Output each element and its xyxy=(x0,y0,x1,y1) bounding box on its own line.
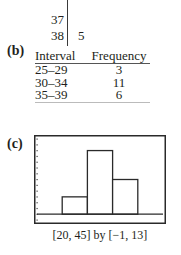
y-tick-dot xyxy=(37,167,38,168)
y-tick-dot xyxy=(37,150,38,151)
y-tick-dot xyxy=(37,162,38,163)
y-tick-dot xyxy=(37,173,38,174)
interval-cell: 35–39 xyxy=(35,89,88,102)
leaf-values: 5 xyxy=(78,29,85,42)
frequency-table: Interval Frequency 25–29 3 30–34 11 35–3… xyxy=(35,50,150,103)
histogram-bar xyxy=(87,151,112,215)
y-tick-dot xyxy=(37,202,38,203)
part-c-label: (c) xyxy=(7,137,23,151)
histogram-bar xyxy=(62,197,87,214)
y-tick-dot xyxy=(37,156,38,157)
window-caption: [20, 45] by [−1, 13] xyxy=(34,229,166,241)
y-tick-dot xyxy=(37,144,38,145)
y-tick-marks xyxy=(37,139,38,221)
y-tick-dot xyxy=(37,139,38,140)
frequency-cell: 6 xyxy=(88,89,150,102)
stem-leaf-divider xyxy=(67,0,68,46)
histogram-chart xyxy=(34,135,166,224)
table-row: 35–39 6 xyxy=(35,89,150,103)
stem-value: 37 xyxy=(44,13,64,26)
histogram-bar xyxy=(113,180,138,215)
stem-value: 38 xyxy=(44,29,64,42)
y-tick-dot xyxy=(37,185,38,186)
y-tick-dot xyxy=(37,191,38,192)
y-tick-dot xyxy=(37,208,38,209)
part-b-label: (b) xyxy=(7,44,24,58)
y-tick-dot xyxy=(37,220,38,221)
y-tick-dot xyxy=(37,179,38,180)
y-tick-dot xyxy=(37,196,38,197)
